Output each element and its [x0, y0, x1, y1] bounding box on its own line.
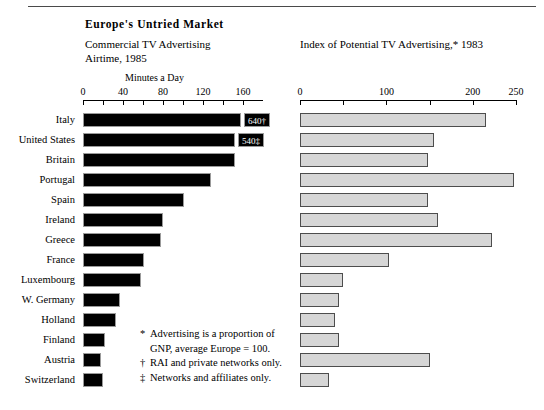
category-label: Spain [0, 193, 75, 207]
chart-page: Europe's Untried Market Commercial TV Ad… [0, 0, 544, 410]
category-label: Portugal [0, 173, 75, 187]
axis-tick-label: 0 [298, 86, 303, 97]
bar-airtime [83, 133, 235, 147]
bar-value-label: 540‡ [238, 133, 264, 147]
footnote-dagger-text: RAI and private networks only. [150, 357, 282, 368]
axis-tick-label: 100 [379, 86, 394, 97]
bar-index [300, 173, 514, 187]
category-label: Italy [0, 113, 75, 127]
bar-index [300, 133, 434, 147]
bar-airtime [83, 373, 103, 387]
bar-index [300, 313, 335, 327]
axis-tick [103, 100, 104, 105]
axis-tick [83, 100, 84, 105]
page-title: Europe's Untried Market [85, 18, 224, 30]
category-label: Austria [0, 353, 75, 367]
footnote-double-dagger: ‡Networks and affiliates only. [140, 371, 340, 386]
bar-airtime [83, 313, 116, 327]
footnote-dagger: †RAI and private networks only. [140, 356, 340, 371]
axis-tick [516, 100, 517, 105]
footnote-double-dagger-marker: ‡ [140, 371, 150, 386]
axis-tick-label: 160 [236, 86, 251, 97]
axis-tick-label: 0 [81, 86, 86, 97]
category-label: W. Germany [0, 293, 75, 307]
category-label: Ireland [0, 213, 75, 227]
axis-tick [143, 100, 144, 105]
axis-tick [300, 100, 301, 105]
bar-airtime [83, 153, 235, 167]
right-chart-x-axis [300, 100, 516, 101]
left-chart-subtitle: Commercial TV Advertising Airtime, 1985 [85, 38, 265, 65]
category-label: Britain [0, 153, 75, 167]
bar-airtime [83, 213, 163, 227]
category-label: Holland [0, 313, 75, 327]
axis-tick [430, 100, 431, 105]
category-label: France [0, 253, 75, 267]
axis-tick [473, 100, 474, 105]
axis-tick-label: 120 [196, 86, 211, 97]
left-axis-units-label: Minutes a Day [125, 72, 184, 83]
bar-airtime [83, 173, 211, 187]
footnote-dagger-marker: † [140, 356, 150, 371]
bar-airtime [83, 273, 141, 287]
bar-airtime [83, 193, 184, 207]
bar-index [300, 293, 339, 307]
category-label: Switzerland [0, 373, 75, 387]
footnote-star-text-line1: Advertising is a proportion of [150, 328, 275, 339]
axis-tick-label: 200 [465, 86, 480, 97]
bar-index [300, 193, 428, 207]
bar-airtime [83, 233, 161, 247]
left-chart-subtitle-line1: Commercial TV Advertising [85, 38, 265, 52]
axis-tick [183, 100, 184, 105]
axis-tick [163, 100, 164, 105]
category-label: United States [0, 133, 75, 147]
category-label: Luxembourg [0, 273, 75, 287]
footnote-star-marker: * [140, 327, 150, 342]
footnotes-block: *Advertising is a proportion of GNP, ave… [140, 327, 340, 385]
axis-tick [223, 100, 224, 105]
footnote-double-dagger-text: Networks and affiliates only. [150, 372, 271, 383]
bar-index [300, 233, 492, 247]
axis-tick [203, 100, 204, 105]
bar-airtime [83, 113, 241, 127]
axis-tick-label: 40 [118, 86, 128, 97]
top-divider-rule [28, 6, 536, 7]
bar-index [300, 213, 438, 227]
bar-airtime [83, 353, 101, 367]
left-chart-subtitle-line2: Airtime, 1985 [85, 52, 265, 66]
bar-index [300, 273, 343, 287]
bar-index [300, 153, 428, 167]
left-chart-x-axis [83, 100, 263, 101]
axis-tick [243, 100, 244, 105]
axis-tick [386, 100, 387, 105]
axis-tick-label: 80 [158, 86, 168, 97]
footnote-star: *Advertising is a proportion of [140, 327, 340, 342]
category-label: Finland [0, 333, 75, 347]
bar-airtime [83, 333, 105, 347]
axis-tick [343, 100, 344, 105]
axis-tick-label: 250 [509, 86, 524, 97]
footnote-star-text-line2: GNP, average Europe = 100. [140, 342, 340, 357]
category-label: Greece [0, 233, 75, 247]
bar-index [300, 113, 486, 127]
axis-tick [123, 100, 124, 105]
right-chart-subtitle: Index of Potential TV Advertising,* 1983 [300, 38, 483, 52]
bar-airtime [83, 293, 120, 307]
bar-value-label: 640† [244, 113, 270, 127]
bar-index [300, 253, 389, 267]
bar-airtime [83, 253, 144, 267]
